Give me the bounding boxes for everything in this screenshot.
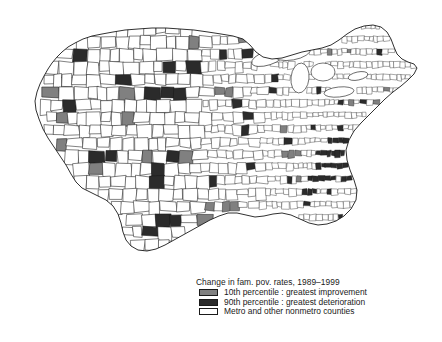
county-polygon	[249, 100, 257, 109]
county-polygon	[290, 201, 298, 209]
county-polygon	[243, 62, 252, 69]
county-polygon	[200, 163, 210, 172]
county-polygon	[248, 188, 256, 197]
county-polygon	[337, 61, 343, 68]
county-polygon	[286, 163, 294, 171]
county-polygon	[366, 24, 372, 28]
county-polygon	[131, 74, 146, 86]
county-polygon	[324, 176, 331, 181]
legend-swatch-gray	[199, 289, 218, 296]
county-polygon	[180, 138, 192, 148]
county-polygon	[307, 87, 313, 93]
county-polygon	[89, 151, 105, 164]
county-polygon	[197, 189, 209, 200]
county-polygon	[383, 74, 391, 80]
county-polygon	[157, 138, 165, 151]
county-polygon	[390, 74, 397, 80]
county-polygon	[315, 125, 321, 132]
county-polygon	[337, 74, 343, 79]
county-polygon	[186, 87, 200, 98]
county-polygon	[217, 100, 227, 107]
county-polygon	[316, 163, 322, 170]
county-polygon	[331, 189, 338, 196]
county-polygon	[272, 125, 281, 132]
county-polygon	[117, 150, 128, 164]
county-polygon	[74, 87, 89, 102]
county-polygon	[314, 202, 320, 207]
county-polygon	[161, 87, 175, 98]
county-polygon	[335, 150, 341, 158]
county-polygon	[315, 138, 321, 142]
county-polygon	[212, 112, 224, 120]
county-polygon	[343, 62, 350, 66]
county-polygon	[203, 75, 214, 85]
county-polygon	[320, 125, 325, 129]
county-polygon	[190, 164, 202, 173]
county-polygon	[300, 112, 307, 119]
county-polygon	[292, 138, 298, 145]
county-polygon	[183, 188, 199, 201]
county-polygon	[308, 176, 312, 181]
county-polygon	[283, 87, 289, 95]
county-polygon	[102, 162, 115, 178]
county-polygon	[283, 61, 288, 68]
county-polygon	[141, 214, 156, 227]
county-polygon	[200, 61, 208, 72]
county-polygon	[256, 176, 268, 184]
county-polygon	[213, 75, 222, 84]
county-polygon	[382, 49, 389, 54]
county-polygon	[310, 138, 315, 143]
county-polygon	[345, 112, 352, 119]
county-polygon	[312, 176, 319, 182]
county-polygon	[67, 112, 78, 124]
county-polygon	[280, 176, 287, 185]
county-polygon	[329, 99, 334, 104]
county-polygon	[242, 49, 254, 59]
county-polygon	[342, 48, 348, 52]
county-polygon	[129, 150, 143, 161]
county-polygon	[199, 87, 215, 96]
county-polygon	[248, 201, 259, 208]
county-polygon	[326, 125, 333, 131]
county-polygon	[214, 202, 223, 211]
county-polygon	[351, 113, 357, 119]
county-polygon	[120, 201, 134, 214]
county-polygon	[111, 175, 126, 187]
county-polygon	[257, 87, 270, 95]
county-polygon	[203, 100, 208, 107]
county-polygon	[56, 112, 68, 124]
county-polygon	[148, 189, 160, 204]
county-polygon	[322, 215, 328, 221]
county-polygon	[234, 150, 244, 160]
county-polygon	[318, 100, 325, 107]
county-polygon	[326, 201, 332, 206]
county-polygon	[259, 201, 267, 210]
county-polygon	[300, 99, 308, 107]
county-polygon	[312, 87, 317, 94]
county-polygon	[292, 112, 300, 117]
county-polygon	[247, 74, 255, 83]
county-polygon	[145, 239, 159, 251]
county-polygon	[302, 189, 308, 195]
legend-entry-other: Metro and other nonmetro counties	[196, 307, 440, 316]
county-polygon	[99, 176, 111, 187]
map-legend: Change in fam. pov. rates, 1989–1999 10t…	[196, 277, 440, 317]
county-polygon	[226, 151, 233, 159]
county-polygon	[62, 74, 72, 87]
county-polygon	[362, 112, 366, 117]
county-polygon	[176, 202, 189, 212]
county-polygon	[208, 188, 219, 200]
county-polygon	[389, 61, 394, 68]
county-polygon	[122, 112, 135, 127]
county-polygon	[89, 125, 101, 134]
county-polygon	[112, 99, 125, 113]
county-polygon	[238, 201, 247, 207]
county-polygon	[190, 137, 201, 149]
county-polygon	[340, 150, 345, 156]
county-polygon	[377, 49, 382, 55]
county-polygon	[307, 150, 312, 157]
county-polygon	[354, 100, 359, 104]
county-polygon	[217, 150, 228, 158]
county-polygon	[71, 75, 86, 85]
legend-label-other: Metro and other nonmetro counties	[224, 307, 354, 316]
